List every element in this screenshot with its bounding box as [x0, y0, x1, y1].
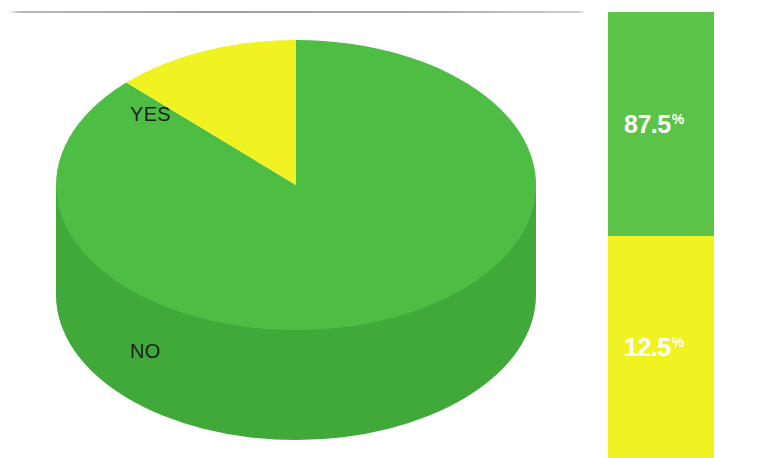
- legend-label-no: NO: [130, 341, 161, 361]
- legend-bar-segment-yes[interactable]: 87.5%: [608, 12, 714, 236]
- chart-canvas: 87.5% 12.5% YES NO: [0, 0, 776, 458]
- pie-chart-svg: [0, 0, 600, 458]
- percent-sign-icon: %: [672, 334, 684, 350]
- legend-percent-no: 12.5%: [608, 335, 684, 360]
- pie-chart: [0, 0, 600, 458]
- percent-sign-icon: %: [672, 111, 684, 127]
- legend: 87.5% 12.5%: [608, 12, 714, 458]
- legend-percent-yes: 87.5%: [608, 112, 684, 137]
- legend-bar-segment-no[interactable]: 12.5%: [608, 236, 714, 458]
- legend-label-yes: YES: [130, 104, 171, 124]
